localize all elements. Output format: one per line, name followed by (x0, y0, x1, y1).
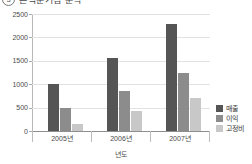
legend-item-fixed-cost[interactable]: 고정비 (216, 125, 244, 132)
y-tick-label: 1000 (0, 81, 28, 88)
bar-sales-2005[interactable] (48, 84, 59, 131)
legend-swatch-icon (216, 115, 223, 122)
bar-group-2007 (166, 24, 201, 131)
legend-item-profit[interactable]: 이익 (216, 115, 244, 122)
legend-item-sales[interactable]: 매출 (216, 105, 244, 112)
chart-legend: 매출 이익 고정비 (216, 105, 244, 132)
x-tick-label-2007: 2007년 (150, 133, 210, 143)
bar-profit-2005[interactable] (60, 108, 71, 131)
bar-fixed-cost-2007[interactable] (190, 98, 201, 131)
x-tick-label-2006: 2006년 (91, 133, 151, 143)
gridline (32, 14, 210, 15)
bar-fixed-cost-2006[interactable] (131, 111, 142, 131)
section-heading-inner: 3 손익분기점 분석 (2, 0, 82, 6)
section-number-badge: 3 (2, 0, 15, 6)
legend-swatch-icon (216, 125, 223, 132)
legend-label-fixed-cost: 고정비 (226, 125, 244, 132)
bar-group-2005 (48, 84, 83, 131)
section-heading-label: 손익분기점 분석 (19, 0, 82, 6)
y-tick-label: 2000 (0, 34, 28, 41)
x-axis-title: 년도 (32, 149, 210, 159)
bar-chart: 2500 2000 1500 1000 500 0 (0, 9, 252, 164)
bar-profit-2006[interactable] (119, 91, 130, 131)
bar-sales-2006[interactable] (107, 58, 118, 131)
y-tick-label: 0 (0, 128, 28, 135)
section-heading-clipped: 3 손익분기점 분석 (0, 0, 252, 9)
bar-group-2006 (107, 58, 142, 131)
legend-swatch-icon (216, 105, 223, 112)
x-tick-label-2005: 2005년 (32, 133, 92, 143)
bar-profit-2007[interactable] (178, 73, 189, 132)
bar-sales-2007[interactable] (166, 24, 177, 131)
y-tick-label: 500 (0, 104, 28, 111)
y-tick-label: 1500 (0, 57, 28, 64)
legend-label-sales: 매출 (226, 105, 238, 112)
bar-fixed-cost-2005[interactable] (72, 124, 83, 131)
plot-area (32, 14, 210, 131)
legend-label-profit: 이익 (226, 115, 238, 122)
y-tick-label: 2500 (0, 11, 28, 18)
x-axis-line (32, 131, 210, 132)
